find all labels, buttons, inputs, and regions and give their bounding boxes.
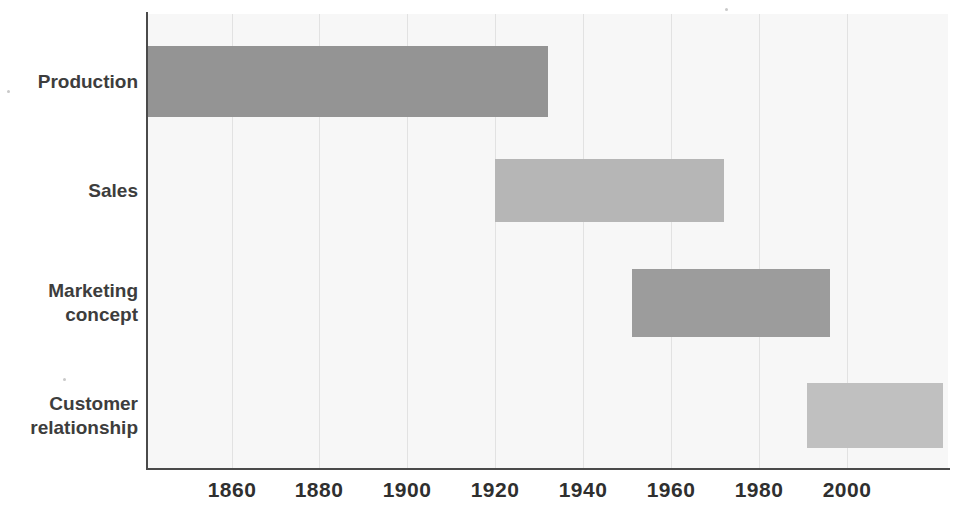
bar-customer-relationship (807, 383, 943, 448)
x-tick-label-2000: 2000 (823, 478, 872, 502)
timeline-bar-chart: ProductionSalesMarketing conceptCustomer… (0, 0, 968, 525)
gridline (583, 14, 584, 468)
category-label-text: Production (38, 70, 138, 94)
x-tick-label-1980: 1980 (735, 478, 784, 502)
x-tick-label-1880: 1880 (295, 478, 344, 502)
scan-speck (63, 378, 66, 381)
x-axis-line (146, 468, 950, 470)
x-tick-label-1960: 1960 (647, 478, 696, 502)
x-tick-label-1920: 1920 (471, 478, 520, 502)
category-label-text: Sales (88, 179, 138, 203)
scan-speck (7, 90, 10, 93)
gridline (759, 14, 760, 468)
gridline (671, 14, 672, 468)
category-label-text: Customer relationship (30, 392, 138, 440)
bar-production (148, 46, 548, 117)
scan-speck (725, 8, 728, 11)
bar-sales (495, 159, 724, 222)
x-tick-label-1860: 1860 (208, 478, 257, 502)
x-tick-label-1940: 1940 (559, 478, 608, 502)
x-tick-label-1900: 1900 (383, 478, 432, 502)
bar-marketing-concept (632, 269, 830, 337)
category-label-text: Marketing concept (48, 279, 138, 327)
y-axis-line (146, 12, 148, 470)
